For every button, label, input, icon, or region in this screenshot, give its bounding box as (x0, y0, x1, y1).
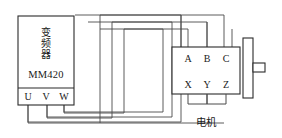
vfd-unit: 变 频 器 MM420 U V W (18, 16, 74, 105)
vfd-model-label: MM420 (28, 69, 63, 80)
vfd-name-char-1: 频 (41, 37, 51, 49)
motor-terminal-x: X (184, 79, 192, 90)
motor-flange (243, 38, 253, 98)
motor-terminal-a: A (184, 53, 192, 64)
wire-u-segment-bottom (28, 105, 224, 123)
vfd-name-char-0: 变 (41, 26, 51, 38)
motor-link-y-z (207, 94, 226, 104)
motor-terminal-z: Z (223, 79, 229, 90)
motor-caption: 电机 (196, 116, 217, 128)
motor-terminal-y: Y (203, 79, 210, 90)
wire-w-path (64, 29, 188, 113)
motor-unit: A B C X Y Z 电机 (172, 38, 265, 128)
wire-u-segment-top (100, 15, 224, 47)
vfd-terminal-v: V (42, 91, 50, 102)
diagram-canvas: 变 频 器 MM420 U V W A B C X Y Z (0, 0, 282, 138)
motor-shaft (253, 63, 265, 72)
motor-terminal-b: B (204, 53, 211, 64)
wire-w-to-c-lower (64, 29, 163, 112)
vfd-terminal-w: W (59, 91, 69, 102)
motor-terminal-c: C (223, 53, 230, 64)
vfd-name-char-2: 器 (41, 49, 51, 60)
vfd-terminal-u: U (24, 91, 32, 102)
motor-link-x-y (188, 94, 207, 104)
wiring-diagram: 变 频 器 MM420 U V W A B C X Y Z (0, 0, 282, 138)
